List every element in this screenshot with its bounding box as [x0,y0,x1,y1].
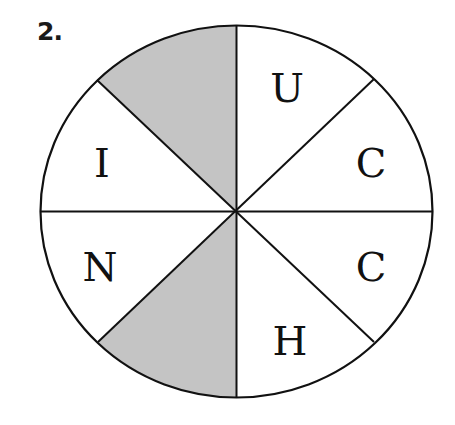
shaded-sector-bottom-left [98,212,237,398]
sector-letter-left-upper: I [94,140,110,186]
sector-letter-right-upper: C [356,140,387,186]
shaded-sector-top-left [97,25,237,211]
sector-letter-bottom-right: H [273,318,308,364]
sector-letter-left-lower: N [83,244,118,290]
sector-letter-right-lower: C [356,244,387,290]
letter-wheel-diagram: U C C H N I [0,0,455,425]
sector-letter-top-right: U [270,65,304,111]
